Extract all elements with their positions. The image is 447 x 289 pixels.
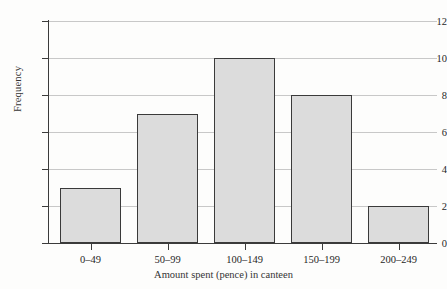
gridline bbox=[48, 21, 437, 22]
x-tick-mark bbox=[322, 243, 323, 250]
x-tick-mark bbox=[245, 243, 246, 250]
bar bbox=[137, 114, 197, 244]
bar bbox=[60, 188, 120, 244]
x-axis-title: Amount spent (pence) in canteen bbox=[0, 269, 447, 280]
y-axis-title: Frequency bbox=[12, 12, 23, 112]
y-tick-label: 12 bbox=[409, 16, 447, 27]
x-tick-label: 150–199 bbox=[303, 254, 340, 265]
y-tick-label: 4 bbox=[409, 164, 447, 175]
bar bbox=[291, 95, 351, 243]
y-axis-line bbox=[48, 20, 49, 244]
x-tick-label: 0–49 bbox=[80, 254, 101, 265]
x-tick-label: 100–149 bbox=[226, 254, 263, 265]
x-tick-mark bbox=[399, 243, 400, 250]
bar bbox=[368, 206, 428, 243]
y-tick-label: 8 bbox=[409, 90, 447, 101]
bar bbox=[214, 58, 274, 243]
x-tick-label: 200–249 bbox=[380, 254, 417, 265]
x-tick-label: 50–99 bbox=[154, 254, 180, 265]
histogram-chart: Frequency 024681012 0–4950–99100–149150–… bbox=[0, 0, 447, 289]
y-tick-label: 6 bbox=[409, 127, 447, 138]
x-tick-mark bbox=[91, 243, 92, 250]
x-tick-mark bbox=[168, 243, 169, 250]
y-tick-label: 10 bbox=[409, 53, 447, 64]
